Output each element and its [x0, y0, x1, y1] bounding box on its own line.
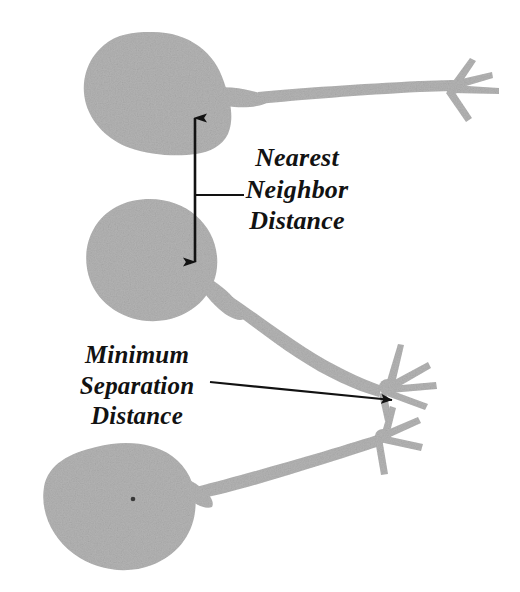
neuron-top-terminal: [445, 58, 499, 122]
nearest-neighbor-line-1: Nearest: [228, 142, 366, 174]
neuron-bottom-soma: [43, 443, 195, 570]
minimum-separation-line-2: Separation: [52, 371, 222, 402]
neuron-middle-terminal-hub: [379, 379, 397, 395]
neuron-top-terminal-hub: [445, 80, 461, 94]
neuron-bottom-axon: [196, 434, 383, 499]
neuron-top-soma: [84, 32, 232, 155]
minimum-separation-line-1: Minimum: [52, 340, 222, 371]
neuron-bottom-nucleus-dot: [131, 497, 136, 502]
neuron-bottom-terminal: [375, 406, 423, 475]
neuron-top: [84, 32, 499, 155]
nearest-neighbor-line-3: Distance: [228, 205, 366, 237]
nearest-neighbor-line-2: Neighbor: [228, 174, 366, 206]
minimum-separation-distance-label: Minimum Separation Distance: [52, 340, 222, 432]
neuron-bottom-terminal-hub: [375, 429, 391, 443]
neuron-bottom-branch-down: [375, 438, 388, 475]
neuron-middle-terminal: [379, 344, 437, 421]
neuron-middle-soma: [86, 199, 217, 321]
nearest-neighbor-distance-label: Nearest Neighbor Distance: [228, 142, 366, 237]
neuron-cells-layer: [43, 32, 499, 570]
neuron-middle-axon: [221, 294, 382, 397]
minimum-separation-line-3: Distance: [52, 401, 222, 432]
neuron-diagram-svg: [0, 0, 520, 592]
figure-canvas: Nearest Neighbor Distance Minimum Separa…: [0, 0, 520, 592]
neuron-top-axon: [258, 80, 452, 104]
